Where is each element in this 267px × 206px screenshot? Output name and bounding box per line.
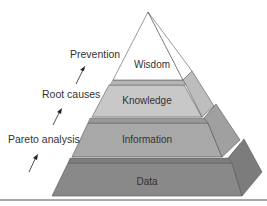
annotation-root-causes: Root causes [42, 88, 100, 100]
information-top-ledge [88, 118, 208, 123]
pyramid-diagram: Data Information Knowledge Wisdom Preven… [0, 0, 267, 206]
arrow-up-icon [29, 157, 36, 172]
arrow-to-pareto-analysis [29, 154, 38, 172]
annotation-label-root-causes: Root causes [42, 88, 100, 100]
level-label-wisdom: Wisdom [134, 59, 170, 70]
level-label-information: Information [122, 134, 172, 145]
level-label-data: Data [136, 176, 158, 187]
annotation-label-prevention: Prevention [70, 48, 120, 60]
arrow-to-prevention [76, 66, 85, 84]
level-wisdom: Wisdom [113, 12, 192, 80]
arrowhead-icon [80, 66, 85, 71]
data-top-ledge [68, 158, 232, 163]
arrowhead-icon [57, 108, 62, 114]
annotation-label-pareto-analysis: Pareto analysis [8, 133, 80, 145]
annotation-pareto-analysis: Pareto analysis [8, 133, 80, 145]
knowledge-top-ledge [110, 80, 186, 85]
arrowhead-icon [33, 154, 38, 160]
level-label-knowledge: Knowledge [122, 95, 172, 106]
annotation-prevention: Prevention [70, 48, 120, 60]
arrow-to-root-causes [53, 108, 62, 125]
arrow-up-icon [53, 111, 60, 125]
